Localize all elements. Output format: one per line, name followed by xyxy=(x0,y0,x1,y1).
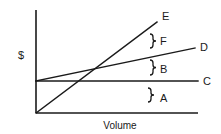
label-e: E xyxy=(162,10,169,22)
label-d: D xyxy=(200,41,208,53)
line-e xyxy=(36,22,157,113)
label-c: C xyxy=(203,75,211,87)
y-axis-label: $ xyxy=(18,49,24,61)
label-a: A xyxy=(160,92,168,104)
x-axis-label: Volume xyxy=(103,120,137,131)
label-f: F xyxy=(160,35,167,47)
brace-f-icon xyxy=(150,34,156,48)
brace-a-icon xyxy=(148,88,154,102)
brace-b-icon xyxy=(150,60,156,75)
label-b: B xyxy=(160,63,167,75)
cvp-diagram: $ Volume E F D B C A xyxy=(0,0,221,134)
